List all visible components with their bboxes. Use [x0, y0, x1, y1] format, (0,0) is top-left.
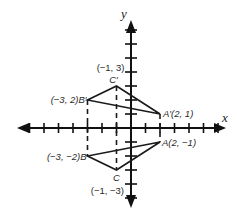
vertex-label-a: A(2, −1) — [161, 137, 196, 148]
y-axis-down-arrow-icon — [126, 195, 136, 208]
coord-label-c: (−1, −3) — [91, 185, 124, 196]
triangle-image — [88, 86, 161, 114]
vertex-label-c: C — [113, 172, 120, 183]
vertex-label-b: (−3, −2)B — [47, 151, 87, 162]
x-axis-left-arrow-icon — [17, 123, 29, 133]
triangle-original — [88, 142, 161, 170]
vertex-label-b-prime: (−3, 2)B′ — [51, 94, 88, 105]
coord-label-c-prime: (−1, 3) — [97, 62, 125, 73]
y-axis-up-arrow-icon — [126, 20, 136, 33]
coordinate-plane: xyA′(2, 1)(−3, 2)B′C′(−1, 3)A(2, −1)(−3,… — [0, 0, 237, 221]
axes — [17, 20, 226, 208]
x-axis-label: x — [221, 110, 228, 125]
vertex-label-a-prime: A′(2, 1) — [162, 108, 193, 119]
labels: xyA′(2, 1)(−3, 2)B′C′(−1, 3)A(2, −1)(−3,… — [47, 6, 228, 196]
vertex-label-c-prime: C′ — [109, 74, 119, 85]
y-axis-label: y — [119, 6, 127, 21]
